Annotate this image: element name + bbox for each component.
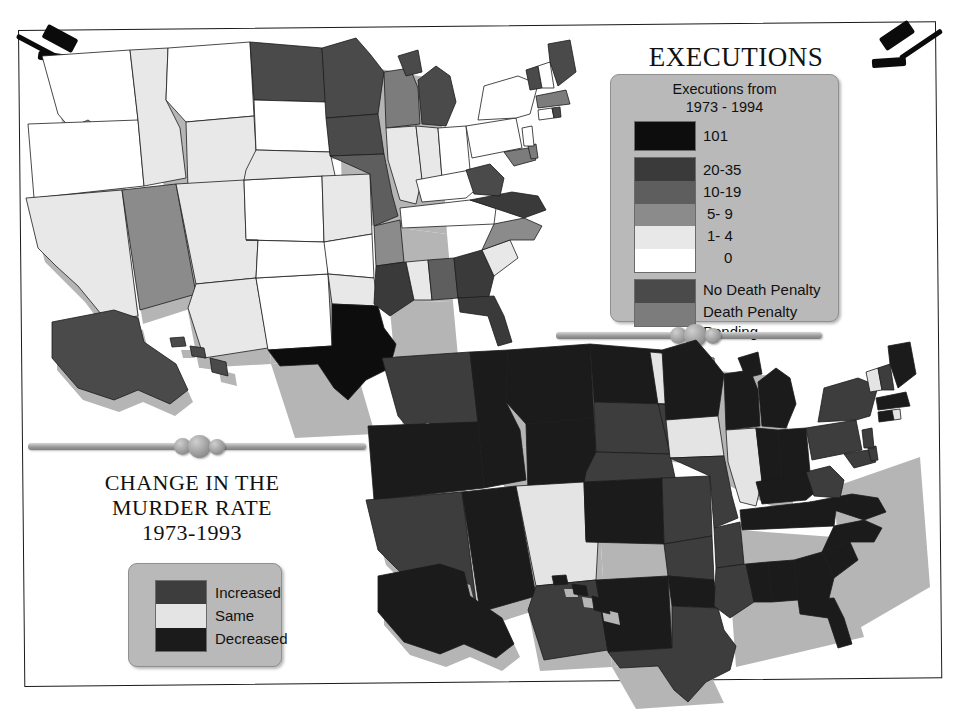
state-HI-2 [572, 584, 588, 596]
murder-title-line3: 1973-1993 [42, 520, 342, 545]
murder-rate-map [358, 330, 957, 710]
state-NE [584, 452, 676, 482]
state-OH [438, 126, 470, 178]
legend-label-1-4: 1- 4 [707, 227, 733, 244]
executions-legend: Executions from 1973 - 1994 101 20-35 10… [610, 74, 839, 322]
state-NE-east [662, 476, 712, 544]
state-OK [328, 274, 378, 306]
state-MT [506, 344, 594, 424]
legend-color-10-19 [635, 181, 695, 204]
legend-color-1-4 [635, 226, 695, 249]
state-OR [28, 120, 144, 198]
legend-label-increased: Increased [215, 584, 281, 601]
state-RI [552, 107, 561, 118]
state-OR [368, 422, 484, 500]
state-KS-east [324, 234, 374, 278]
gavel-head [879, 20, 916, 51]
legend-label-death-penalty-pending-line1: Death Penalty [703, 303, 797, 320]
state-NM [256, 274, 332, 350]
state-AL [428, 258, 458, 300]
state-OH [778, 428, 810, 480]
state-SD [254, 100, 330, 152]
state-KS [664, 536, 714, 580]
legend-swatch-101 [634, 121, 696, 151]
executions-legend-caption: Executions from 1973 - 1994 [611, 75, 838, 116]
gavel-sound-block [872, 57, 907, 68]
murder-rate-legend: Increased Same Decreased [128, 563, 282, 667]
state-NE-east [322, 174, 372, 242]
murder-title-line2: MURDER RATE [42, 495, 342, 520]
state-MI [418, 66, 456, 126]
state-IA [666, 416, 724, 458]
state-MA [536, 90, 570, 108]
legend-color-0 [635, 249, 695, 272]
legend-label-5-9: 5- 9 [707, 205, 733, 222]
legend-swatch-status [634, 279, 696, 327]
legend-color-20-35 [635, 158, 695, 181]
state-MA [876, 392, 910, 410]
state-ND [250, 42, 326, 102]
legend-color-5-9 [635, 204, 695, 227]
legend-swatch-ramp [634, 157, 696, 273]
legend-label-20-35: 20-35 [703, 161, 741, 178]
state-CT [878, 410, 894, 422]
legend-color-no-death-penalty [635, 280, 695, 303]
gavel-icon [866, 14, 946, 76]
legend-label-10-19: 10-19 [703, 183, 741, 200]
executions-title: EXECUTIONS [616, 42, 856, 73]
legend-label-decreased: Decreased [215, 630, 288, 647]
state-NJ [862, 428, 874, 448]
state-SD [594, 402, 670, 454]
state-CA [26, 190, 138, 320]
state-HI-1 [170, 337, 186, 347]
legend-color-same [156, 604, 206, 627]
state-HI-1 [552, 575, 568, 585]
state-OK [668, 576, 718, 608]
state-MN [322, 38, 384, 118]
murder-rate-title: CHANGE IN THE MURDER RATE 1973-1993 [42, 470, 342, 545]
state-MN [662, 340, 724, 420]
state-NE [244, 150, 336, 180]
legend-caption-line1: Executions from [611, 80, 838, 98]
legend-label-no-death-penalty: No Death Penalty [703, 281, 821, 298]
poster-canvas: EXECUTIONS Executions from 1973 - 1994 1… [0, 0, 957, 712]
legend-color-increased [156, 581, 206, 604]
legend-caption-line2: 1973 - 1994 [611, 98, 838, 116]
state-RI [892, 409, 901, 420]
legend-swatch-murder [155, 580, 207, 652]
state-CT [538, 108, 554, 120]
state-HI-2 [190, 346, 206, 358]
legend-label-101: 101 [703, 127, 728, 144]
state-KS [246, 240, 328, 278]
state-AL [768, 560, 798, 602]
legend-color-101 [635, 122, 695, 150]
state-MT [166, 42, 254, 122]
state-NJ [522, 126, 534, 146]
state-AZ [188, 278, 268, 358]
legend-label-0: 0 [724, 249, 732, 266]
state-AR [714, 522, 744, 568]
state-AR [374, 220, 404, 266]
state-CO [584, 478, 664, 544]
state-IA [326, 114, 384, 156]
legend-label-same: Same [215, 607, 254, 624]
state-CO [244, 176, 324, 242]
legend-color-death-penalty-pending [635, 303, 695, 326]
legend-color-decreased [156, 628, 206, 651]
murder-title-line1: CHANGE IN THE [42, 470, 342, 495]
state-AK [52, 310, 188, 404]
